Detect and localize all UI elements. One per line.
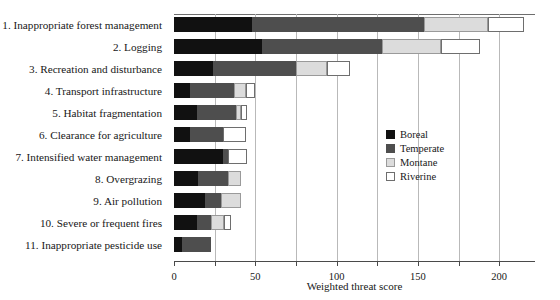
bar-segment-boreal[interactable] (174, 193, 205, 208)
category-label: 2. Logging (0, 36, 168, 58)
bar-segment-riverine[interactable] (228, 149, 248, 164)
bar-segment-riverine[interactable] (223, 127, 246, 142)
category-label: 4. Transport infrastructure (0, 80, 168, 102)
bar-row (174, 212, 535, 234)
legend-item-montane[interactable]: Montane (386, 156, 444, 169)
stacked-bar[interactable] (174, 105, 247, 120)
category-label: 11. Inappropriate pesticide use (0, 234, 168, 256)
bar-segment-boreal[interactable] (174, 149, 223, 164)
bar-segment-boreal[interactable] (174, 61, 213, 76)
stacked-bar[interactable] (174, 17, 524, 32)
bar-segment-riverine[interactable] (441, 39, 480, 54)
legend-label: Riverine (400, 171, 436, 182)
legend-item-temperate[interactable]: Temperate (386, 142, 444, 155)
bar-segment-boreal[interactable] (174, 237, 182, 252)
x-axis-title: Weighted threat score (174, 280, 535, 292)
threat-score-chart: 1. Inappropriate forest management2. Log… (0, 0, 560, 300)
stacked-bar[interactable] (174, 215, 231, 230)
category-label: 7. Intensified water management (0, 146, 168, 168)
bar-row (174, 14, 535, 36)
category-label: 8. Overgrazing (0, 168, 168, 190)
bar-segment-temperate[interactable] (252, 17, 424, 32)
bar-segment-montane[interactable] (211, 215, 224, 230)
legend-item-boreal[interactable]: Boreal (386, 128, 444, 141)
bar-row (174, 190, 535, 212)
bar-row (174, 168, 535, 190)
category-axis-labels: 1. Inappropriate forest management2. Log… (0, 14, 168, 256)
bar-segment-montane[interactable] (424, 17, 487, 32)
bar-segment-montane[interactable] (221, 193, 241, 208)
bar-segment-temperate[interactable] (190, 83, 234, 98)
axis-tick (459, 262, 460, 266)
bar-segment-temperate[interactable] (213, 61, 296, 76)
plot-area: 050100150200 (174, 14, 535, 262)
legend-label: Temperate (400, 143, 444, 154)
legend-label: Montane (400, 157, 437, 168)
bar-row (174, 234, 535, 256)
stacked-bar[interactable] (174, 237, 211, 252)
axis-tick (377, 262, 378, 266)
bar-row (174, 58, 535, 80)
bar-segment-boreal[interactable] (174, 83, 190, 98)
bar-segment-montane[interactable] (296, 61, 327, 76)
bar-segment-temperate[interactable] (262, 39, 382, 54)
category-label: 9. Air pollution (0, 190, 168, 212)
stacked-bar[interactable] (174, 149, 247, 164)
bar-segment-riverine[interactable] (224, 215, 231, 230)
category-label: 1. Inappropriate forest management (0, 14, 168, 36)
stacked-bar[interactable] (174, 127, 246, 142)
bar-segment-riverine[interactable] (488, 17, 524, 32)
legend-label: Boreal (400, 129, 428, 140)
bar-segment-temperate[interactable] (197, 105, 236, 120)
bar-series-container (174, 14, 535, 256)
stacked-bar[interactable] (174, 61, 350, 76)
category-label: 3. Recreation and disturbance (0, 58, 168, 80)
bar-segment-temperate[interactable] (205, 193, 221, 208)
bar-segment-boreal[interactable] (174, 171, 198, 186)
axis-tick (499, 262, 500, 266)
category-label: 5. Habitat fragmentation (0, 102, 168, 124)
legend-swatch-boreal-icon (386, 130, 395, 139)
bar-segment-boreal[interactable] (174, 105, 197, 120)
bar-segment-boreal[interactable] (174, 17, 252, 32)
axis-tick (418, 262, 419, 266)
bar-row (174, 102, 535, 124)
legend: BorealTemperateMontaneRiverine (386, 128, 444, 184)
bar-row (174, 146, 535, 168)
stacked-bar[interactable] (174, 171, 241, 186)
bar-segment-riverine[interactable] (241, 105, 248, 120)
bar-segment-temperate[interactable] (197, 215, 212, 230)
x-axis-line (174, 261, 535, 262)
legend-swatch-riverine-icon (386, 172, 395, 181)
axis-tick (174, 262, 175, 266)
bar-segment-montane[interactable] (228, 171, 241, 186)
bar-segment-temperate[interactable] (182, 237, 211, 252)
bar-segment-boreal[interactable] (174, 127, 190, 142)
stacked-bar[interactable] (174, 39, 480, 54)
bar-segment-temperate[interactable] (198, 171, 227, 186)
bar-row (174, 36, 535, 58)
bar-segment-riverine[interactable] (246, 83, 256, 98)
bar-segment-boreal[interactable] (174, 39, 262, 54)
category-label: 10. Severe or frequent fires (0, 212, 168, 234)
bar-row (174, 80, 535, 102)
bar-segment-montane[interactable] (234, 83, 245, 98)
stacked-bar[interactable] (174, 83, 255, 98)
axis-tick (296, 262, 297, 266)
category-label: 6. Clearance for agriculture (0, 124, 168, 146)
bar-row (174, 124, 535, 146)
legend-item-riverine[interactable]: Riverine (386, 170, 444, 183)
axis-tick (337, 262, 338, 266)
axis-tick (215, 262, 216, 266)
axis-tick (255, 262, 256, 266)
bar-segment-montane[interactable] (382, 39, 441, 54)
legend-swatch-montane-icon (386, 158, 395, 167)
stacked-bar[interactable] (174, 193, 241, 208)
bar-segment-temperate[interactable] (190, 127, 223, 142)
legend-swatch-temperate-icon (386, 144, 395, 153)
bar-segment-riverine[interactable] (327, 61, 350, 76)
bar-segment-boreal[interactable] (174, 215, 197, 230)
